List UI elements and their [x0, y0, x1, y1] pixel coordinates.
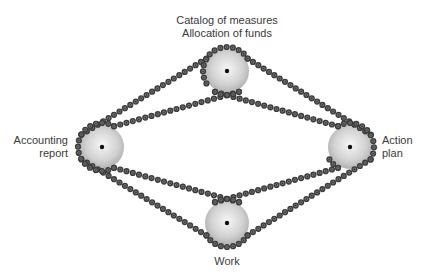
hub-icon — [225, 221, 229, 225]
label-work-text: Work — [200, 255, 254, 268]
label-allocation: Allocation of funds — [150, 27, 304, 40]
hub-icon — [100, 145, 104, 149]
label-plan: plan — [382, 147, 427, 160]
label-work: Work — [200, 255, 254, 268]
label-report: report — [4, 147, 68, 160]
label-catalog-allocation: Catalog of measures Allocation of funds — [150, 14, 304, 40]
label-catalog: Catalog of measures — [150, 14, 304, 27]
label-action-plan: Action plan — [382, 134, 427, 160]
label-accounting-report: Accounting report — [4, 134, 68, 160]
label-accounting: Accounting — [4, 134, 68, 147]
hub-icon — [225, 69, 229, 73]
hub-icon — [348, 145, 352, 149]
label-action: Action — [382, 134, 427, 147]
